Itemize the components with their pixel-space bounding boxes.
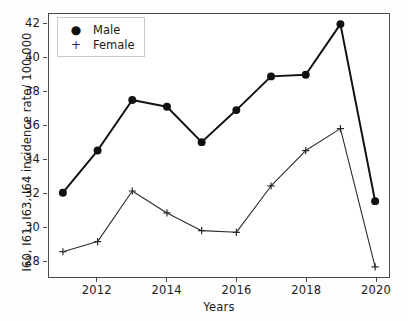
y-axis-tick-mark xyxy=(43,91,47,92)
legend-item-female: + Female xyxy=(63,37,135,52)
x-axis-title: Years xyxy=(48,300,390,314)
y-axis-tick-mark xyxy=(43,261,47,262)
data-point-marker xyxy=(163,103,171,111)
data-point-marker xyxy=(232,106,240,114)
data-point-marker xyxy=(128,96,136,104)
chart-figure: 2830323436384042 I60, I61, I63, I64 inci… xyxy=(0,0,408,321)
y-axis-tick-mark xyxy=(43,159,47,160)
y-axis-tick-mark xyxy=(43,193,47,194)
data-point-marker xyxy=(129,187,136,194)
x-axis-tick-mark xyxy=(96,278,97,282)
data-point-marker xyxy=(198,227,205,234)
data-point-marker xyxy=(94,238,101,245)
y-axis-tick-mark xyxy=(43,227,47,228)
data-point-marker xyxy=(371,197,379,205)
chart-legend: ● Male + Female xyxy=(57,17,145,57)
data-point-marker xyxy=(163,209,170,216)
x-axis-tick-label: 2014 xyxy=(152,283,182,297)
x-axis-tick-mark xyxy=(306,278,307,282)
legend-label-male: Male xyxy=(89,23,120,37)
legend-item-male: ● Male xyxy=(63,22,135,37)
legend-plus-marker-icon: + xyxy=(63,39,89,51)
data-point-marker xyxy=(336,20,344,28)
x-axis-tick-mark xyxy=(166,278,167,282)
data-point-marker xyxy=(94,147,102,155)
x-axis-tick-label: 2016 xyxy=(221,283,251,297)
series-female xyxy=(59,125,378,270)
y-axis-tick-mark xyxy=(43,23,47,24)
data-point-marker xyxy=(59,248,66,255)
y-axis-tick-mark xyxy=(43,125,47,126)
x-axis-tick-label: 2020 xyxy=(361,283,391,297)
legend-label-female: Female xyxy=(89,38,135,52)
data-point-marker xyxy=(267,72,275,80)
series-line xyxy=(63,129,375,267)
x-axis-tick-mark xyxy=(376,278,377,282)
data-point-marker xyxy=(302,71,310,79)
x-axis-tick-mark xyxy=(236,278,237,282)
data-point-marker xyxy=(198,138,206,146)
y-axis-title: I60, I61, I63, I64 incidence rate/ 100,0… xyxy=(20,22,34,282)
data-point-marker xyxy=(59,189,67,197)
x-axis-tick-label: 2012 xyxy=(82,283,112,297)
legend-circle-marker-icon: ● xyxy=(63,24,89,36)
data-point-marker xyxy=(337,125,344,132)
x-axis-tick-label: 2018 xyxy=(291,283,321,297)
y-axis-tick-mark xyxy=(43,57,47,58)
data-point-marker xyxy=(372,263,379,270)
